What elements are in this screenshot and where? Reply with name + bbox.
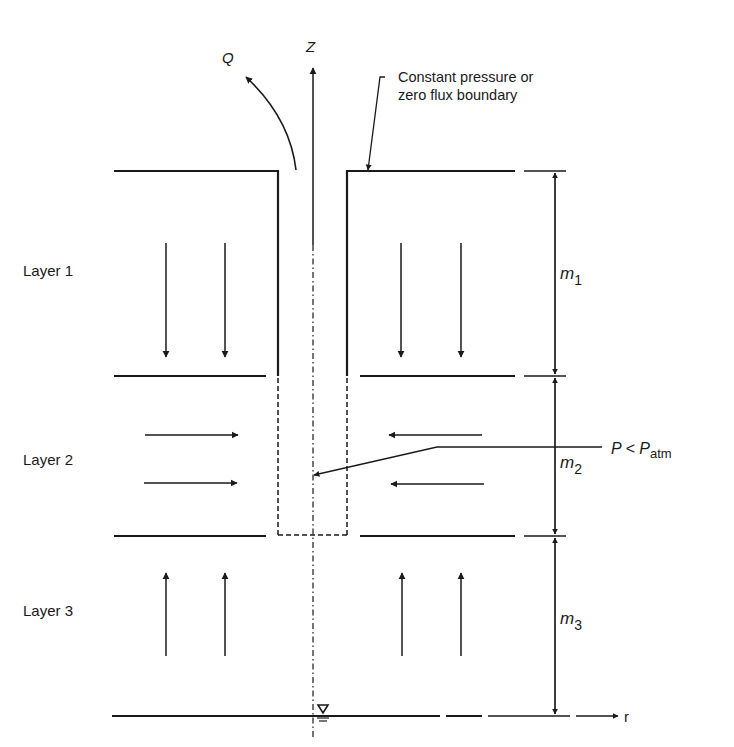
layer3-label: Layer 3 [23, 602, 73, 619]
layer2-label: Layer 2 [23, 451, 73, 468]
boundary-note-line2: zero flux boundary [398, 87, 518, 103]
water-table-icon [317, 705, 329, 721]
pressure-leader [314, 447, 602, 475]
discharge-arrow [246, 77, 296, 170]
z-axis-label: Z [305, 38, 316, 55]
m2-label: m2 [560, 453, 582, 477]
layer-boundaries [112, 171, 570, 716]
pressure-label: P < Patm [611, 440, 672, 461]
discharge-label: Q [222, 49, 234, 66]
layer1-label: Layer 1 [23, 262, 73, 279]
layered-well-diagram: Z Q Constant pressure or zero flux bound… [0, 0, 734, 747]
m3-label: m3 [560, 609, 582, 633]
m1-label: m1 [560, 264, 582, 288]
r-axis-label: r [624, 708, 629, 725]
boundary-note-line1: Constant pressure or [398, 69, 534, 85]
layer2-flow-arrows [144, 435, 484, 484]
boundary-leader [368, 77, 385, 170]
